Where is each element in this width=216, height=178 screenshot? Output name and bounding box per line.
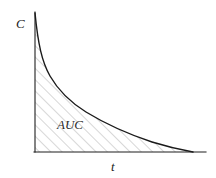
auc-hatch-fill: [30, 8, 210, 158]
auc-hatched-area: [30, 8, 210, 158]
concentration-time-chart: C t AUC: [0, 0, 216, 178]
auc-figure-container: C t AUC: [0, 0, 216, 178]
auc-area-label: AUC: [56, 117, 83, 132]
x-axis-label: t: [111, 159, 115, 174]
y-axis-label: C: [16, 16, 25, 31]
